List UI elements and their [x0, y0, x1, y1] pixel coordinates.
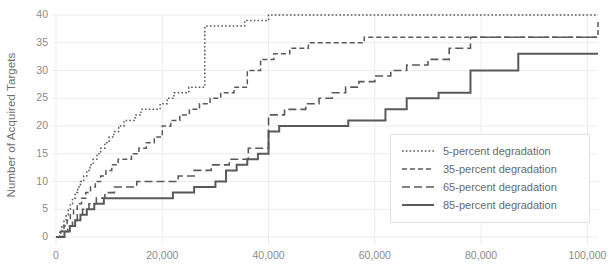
y-tick-label: 30 [22, 64, 48, 76]
x-tick-label: 60,000 [335, 249, 415, 261]
x-tick-label: 0 [16, 249, 96, 261]
legend-item[interactable]: 35-percent degradation [401, 160, 579, 178]
legend-line-swatch-icon [401, 163, 435, 175]
y-tick-label: 40 [22, 8, 48, 20]
legend-item-label: 5-percent degradation [443, 145, 551, 157]
y-tick-label: 5 [22, 202, 48, 214]
x-tick-label: 20,000 [122, 249, 202, 261]
y-tick-label: 35 [22, 36, 48, 48]
legend-item[interactable]: 5-percent degradation [401, 142, 579, 160]
legend-item[interactable]: 85-percent degradation [401, 196, 579, 214]
legend-item-label: 85-percent degradation [443, 199, 557, 211]
legend-line-swatch-icon [401, 145, 435, 157]
chart-legend: 5-percent degradation35-percent degradat… [390, 134, 590, 223]
x-tick-label: 40,000 [229, 249, 309, 261]
legend-line-swatch-icon [401, 181, 435, 193]
y-tick-label: 10 [22, 175, 48, 187]
y-tick-label: 20 [22, 119, 48, 131]
x-tick-label: 80,000 [441, 249, 521, 261]
legend-item[interactable]: 65-percent degradation [401, 178, 579, 196]
y-tick-label: 25 [22, 91, 48, 103]
x-tick-label: 100,000 [547, 249, 611, 261]
y-tick-label: 0 [22, 230, 48, 242]
legend-item-label: 65-percent degradation [443, 181, 557, 193]
y-tick-label: 15 [22, 147, 48, 159]
legend-item-label: 35-percent degradation [443, 163, 557, 175]
legend-line-swatch-icon [401, 199, 435, 211]
